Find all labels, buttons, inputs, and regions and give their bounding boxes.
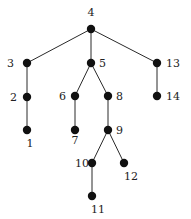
node-label-3: 3 [7,57,14,70]
node-11 [88,192,96,200]
node-label-13: 13 [166,57,180,70]
node-1 [23,126,31,134]
node-9 [104,126,112,134]
node-14 [153,92,161,100]
tree-labels: 4351326814179101211 [7,6,180,216]
node-label-11: 11 [91,203,105,216]
node-label-8: 8 [116,90,123,103]
node-4 [87,25,95,33]
edge-9-10 [92,130,108,163]
node-3 [23,59,31,67]
node-label-12: 12 [124,170,138,183]
node-5 [87,59,95,67]
tree-diagram: 4351326814179101211 [0,0,191,219]
node-label-5: 5 [99,57,106,70]
node-label-1: 1 [27,137,34,150]
node-label-10: 10 [75,157,89,170]
node-7 [71,126,79,134]
node-label-4: 4 [88,6,95,19]
node-10 [88,159,96,167]
node-label-14: 14 [166,90,180,103]
node-label-6: 6 [59,90,66,103]
edge-5-6 [75,63,91,96]
node-2 [23,93,31,101]
node-label-2: 2 [10,91,17,104]
edge-4-3 [27,29,91,63]
node-6 [71,92,79,100]
node-8 [104,92,112,100]
node-label-9: 9 [116,124,123,137]
node-label-7: 7 [72,134,79,147]
node-13 [153,59,161,67]
node-12 [120,159,128,167]
